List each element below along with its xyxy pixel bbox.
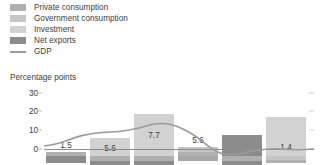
y-axis-tick-mark <box>37 130 42 131</box>
legend-item-label: GDP <box>34 47 52 57</box>
y-axis-title: Percentage points <box>10 73 76 82</box>
legend-item-government-consumption: Government consumption <box>10 13 240 24</box>
legend-swatch-icon <box>10 26 26 33</box>
chart-legend: Private consumption Government consumpti… <box>10 2 240 57</box>
chart-plot-area: 30 20 10 0 1.5 5.6 7.7 <box>0 86 324 165</box>
legend-swatch-icon <box>10 15 26 22</box>
legend-item-label: Government consumption <box>34 14 128 24</box>
y-axis: 30 20 10 0 <box>0 86 44 165</box>
legend-item-label: Net exports <box>34 36 76 46</box>
legend-item-label: Private consumption <box>34 3 108 13</box>
legend-item-gdp: GDP <box>10 46 240 57</box>
gdp-line-series <box>44 86 314 165</box>
legend-swatch-icon <box>10 37 26 44</box>
legend-swatch-icon <box>10 4 26 11</box>
legend-item-investment: Investment <box>10 24 240 35</box>
legend-item-label: Investment <box>34 25 74 35</box>
gdp-line-path <box>44 124 314 155</box>
legend-item-private-consumption: Private consumption <box>10 2 240 13</box>
y-axis-tick-mark <box>37 149 42 150</box>
legend-item-net-exports: Net exports <box>10 35 240 46</box>
y-axis-tick-mark <box>37 111 42 112</box>
y-axis-tick-mark <box>37 93 42 94</box>
legend-line-icon <box>10 48 26 55</box>
